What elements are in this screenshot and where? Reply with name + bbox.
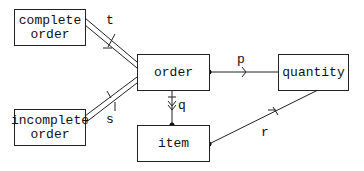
entity-label: complete order: [19, 14, 81, 42]
entity-complete-order[interactable]: complete order: [14, 9, 86, 46]
relationship-q-line: [168, 90, 176, 125]
relationship-label-q: q: [178, 99, 186, 112]
entity-item[interactable]: item: [137, 125, 210, 162]
entity-order[interactable]: order: [137, 54, 210, 91]
relationship-label-s: s: [106, 113, 114, 126]
entity-label: quantity: [282, 66, 344, 80]
entity-relationship-diagram: complete order incomplete order order qu…: [0, 0, 364, 171]
relationship-label-r: r: [261, 126, 269, 139]
entity-label: incomplete order: [11, 114, 89, 142]
relationship-label-p: p: [237, 53, 245, 66]
entity-label: item: [158, 137, 189, 151]
entity-quantity[interactable]: quantity: [278, 54, 349, 91]
entity-label: order: [154, 66, 193, 80]
relationship-p-line: [209, 67, 278, 77]
relationship-label-t: t: [106, 14, 114, 27]
entity-incomplete-order[interactable]: incomplete order: [14, 109, 86, 146]
